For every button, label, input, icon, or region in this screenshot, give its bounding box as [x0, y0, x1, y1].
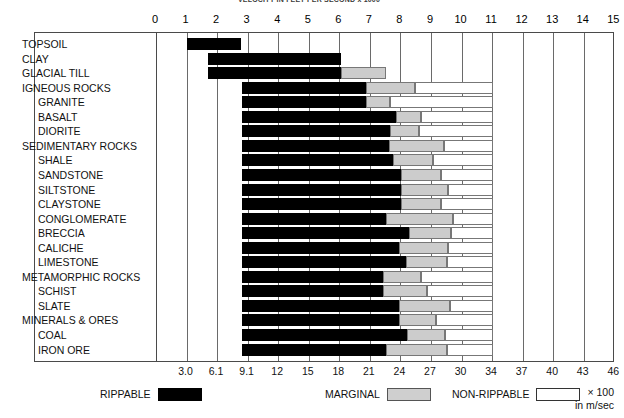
bar-row [34, 242, 614, 254]
segment-rippable [208, 67, 341, 79]
bar-row [34, 271, 614, 283]
segment-rippable [242, 169, 401, 181]
legend-label: RIPPABLE [100, 386, 151, 402]
segment-rippable [187, 38, 240, 50]
bar-row [34, 227, 614, 239]
segment-non-rippable [448, 242, 492, 254]
segment-rippable [242, 344, 386, 356]
top-tick-2: 2 [204, 12, 228, 26]
segment-rippable [242, 82, 366, 94]
bar-row [34, 96, 614, 108]
top-tick-10: 10 [449, 12, 473, 26]
segment-marginal [407, 329, 445, 341]
segment-marginal [409, 227, 452, 239]
bar-row [34, 67, 614, 79]
segment-rippable [242, 256, 405, 268]
segment-marginal [396, 111, 420, 123]
legend-item-rip: RIPPABLE [100, 386, 202, 402]
top-tick-4: 4 [265, 12, 289, 26]
bar-row [34, 140, 614, 152]
top-tick-9: 9 [418, 12, 442, 26]
bottom-tick-43: 43 [568, 364, 598, 378]
segment-marginal [341, 67, 385, 79]
segment-non-rippable [433, 154, 493, 166]
bar-row [34, 169, 614, 181]
segment-non-rippable [441, 198, 493, 210]
segment-non-rippable [427, 285, 493, 297]
segment-marginal [383, 271, 421, 283]
bar-row [34, 154, 614, 166]
bar-row [34, 256, 614, 268]
chart-title: VELOCITY IN FEET PER SECOND x 1000 [0, 0, 618, 4]
segment-rippable [242, 300, 399, 312]
top-tick-1: 1 [174, 12, 198, 26]
segment-rippable [242, 184, 401, 196]
units-note: × 100 in m/sec [524, 386, 614, 412]
segment-marginal [389, 140, 444, 152]
segment-non-rippable [421, 271, 493, 283]
segment-marginal [393, 154, 433, 166]
segment-marginal [401, 184, 448, 196]
bar-row [34, 329, 614, 341]
segment-non-rippable [448, 184, 492, 196]
bar-row [34, 285, 614, 297]
segment-rippable [242, 271, 383, 283]
segment-rippable [242, 227, 408, 239]
bottom-tick-27: 27 [415, 364, 445, 378]
bar-row [34, 314, 614, 326]
bar-row [34, 111, 614, 123]
segment-non-rippable [447, 344, 493, 356]
segment-marginal [366, 82, 415, 94]
units-line-1: × 100 [524, 386, 614, 399]
top-tick-3: 3 [235, 12, 259, 26]
segment-marginal [399, 314, 436, 326]
top-tick-13: 13 [540, 12, 564, 26]
segment-non-rippable [421, 111, 493, 123]
segment-rippable [242, 111, 396, 123]
segment-rippable [242, 198, 401, 210]
bar-row [34, 53, 614, 65]
segment-marginal [390, 125, 419, 137]
bar-row [34, 184, 614, 196]
segment-rippable [242, 329, 407, 341]
segment-rippable [242, 314, 399, 326]
top-tick-8: 8 [387, 12, 411, 26]
bottom-tick-46: 46 [598, 364, 624, 378]
segment-non-rippable [444, 140, 493, 152]
bottom-tick-40: 40 [537, 364, 567, 378]
segment-marginal [401, 169, 441, 181]
bar-row [34, 300, 614, 312]
segment-rippable [208, 53, 341, 65]
segment-non-rippable [450, 300, 493, 312]
legend-swatch-rip [158, 388, 202, 401]
segment-non-rippable [436, 314, 493, 326]
segment-non-rippable [419, 125, 492, 137]
segment-non-rippable [441, 169, 493, 181]
segment-rippable [242, 213, 386, 225]
segment-rippable [242, 140, 389, 152]
bottom-tick-6.1: 6.1 [201, 364, 231, 378]
legend-label: NON-RIPPABLE [452, 386, 529, 402]
bars-layer [34, 32, 614, 362]
segment-non-rippable [415, 82, 493, 94]
segment-non-rippable [390, 96, 492, 108]
bar-row [34, 82, 614, 94]
bottom-tick-34: 34 [476, 364, 506, 378]
segment-non-rippable [451, 227, 492, 239]
bottom-axis-ticks: 3.06.19.1121518212427303437404346 [0, 364, 618, 378]
top-tick-12: 12 [510, 12, 534, 26]
top-tick-15: 15 [601, 12, 624, 26]
segment-rippable [242, 125, 390, 137]
legend-label: MARGINAL [325, 386, 380, 402]
top-axis-ticks: 0123456789101112131415 [0, 12, 618, 26]
segment-rippable [242, 285, 383, 297]
segment-rippable [242, 154, 393, 166]
bottom-tick-15: 15 [293, 364, 323, 378]
segment-marginal [399, 300, 449, 312]
top-tick-7: 7 [357, 12, 381, 26]
top-tick-5: 5 [296, 12, 320, 26]
segment-non-rippable [453, 213, 493, 225]
units-line-2: in m/sec [524, 399, 614, 412]
legend-item-mar: MARGINAL [325, 386, 431, 402]
segment-rippable [242, 96, 366, 108]
